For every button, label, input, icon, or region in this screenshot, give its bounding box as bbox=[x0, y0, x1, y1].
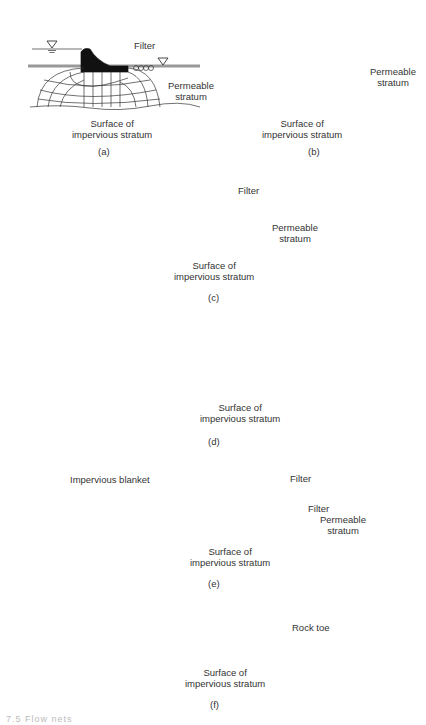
panel-d-impervious-label: Surface of impervious stratum bbox=[200, 402, 280, 424]
panel-b-caption: (b) bbox=[308, 146, 320, 157]
panel-e-impervious-label: Surface of impervious stratum bbox=[190, 546, 270, 568]
panel-f-impervious-label: Surface of impervious stratum bbox=[185, 667, 265, 689]
panel-b-permeable-label: Permeable stratum bbox=[370, 66, 416, 88]
panel-d-caption: (d) bbox=[208, 436, 220, 447]
panel-e-permeable-label: Permeable stratum bbox=[320, 514, 366, 536]
panel-f-rock-toe-label: Rock toe bbox=[292, 622, 330, 633]
panel-c-impervious-label: Surface of impervious stratum bbox=[174, 260, 254, 282]
flow-net-figure bbox=[0, 0, 426, 725]
panel-a-filter-label: Filter bbox=[134, 40, 155, 51]
panel-f-caption: (f) bbox=[210, 699, 219, 710]
panel-a-permeable-label: Permeable stratum bbox=[168, 80, 214, 102]
panel-e-filter-lower-label: Filter bbox=[308, 503, 329, 514]
panel-a-caption: (a) bbox=[98, 146, 110, 157]
panel-e-impervious-blanket-label: Impervious blanket bbox=[70, 474, 150, 485]
panel-c-caption: (c) bbox=[208, 292, 219, 303]
panel-b-impervious-label: Surface of impervious stratum bbox=[262, 118, 342, 140]
panel-e-filter-top-label: Filter bbox=[290, 473, 311, 484]
panel-c-filter-label: Filter bbox=[238, 185, 259, 196]
panel-c-permeable-label: Permeable stratum bbox=[272, 222, 318, 244]
figure-caption: 7.5 Flow nets bbox=[6, 714, 73, 724]
panel-a-impervious-label: Surface of impervious stratum bbox=[72, 118, 152, 140]
panel-e-caption: (e) bbox=[208, 578, 220, 589]
